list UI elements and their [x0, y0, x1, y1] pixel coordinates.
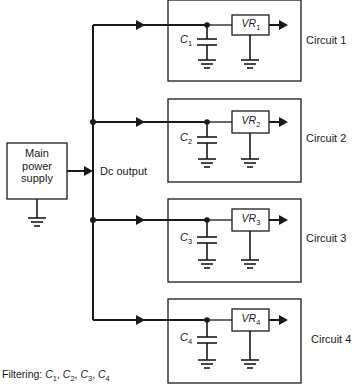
caption-c3: C [80, 368, 88, 380]
filtering-prefix: Filtering: [2, 368, 42, 380]
schematic-diagram [0, 0, 355, 387]
vr4-label: VR4 [232, 312, 270, 327]
dc-output-label: Dc output [100, 165, 147, 177]
c1-label: C1 [180, 33, 192, 48]
vr2-label: VR2 [232, 114, 270, 129]
circuit-2-label: Circuit 2 [306, 132, 346, 144]
c2-label: C2 [180, 131, 192, 146]
circuit-3-label: Circuit 3 [306, 232, 346, 244]
mps-line-3: supply [8, 172, 66, 185]
caption-c4: C [98, 368, 106, 380]
caption-c1: C [45, 368, 53, 380]
caption-c4-sub: 4 [106, 374, 110, 383]
ground-icon [28, 218, 46, 226]
main-power-supply-label: Main power supply [8, 147, 66, 185]
filtering-caption: Filtering: C1, C2, C3, C4 [2, 368, 110, 383]
c4-label: C4 [180, 331, 192, 346]
mps-line-1: Main [8, 147, 66, 160]
circuit-4-label: Circuit 4 [311, 333, 351, 345]
vr1-label: VR1 [232, 17, 270, 32]
dc-bus [90, 25, 96, 320]
circuit-1-label: Circuit 1 [306, 34, 346, 46]
c3-label: C3 [180, 231, 192, 246]
mps-line-2: power [8, 160, 66, 173]
vr3-label: VR3 [232, 212, 270, 227]
circuit-1 [93, 0, 301, 81]
arrow-icon [84, 166, 93, 176]
